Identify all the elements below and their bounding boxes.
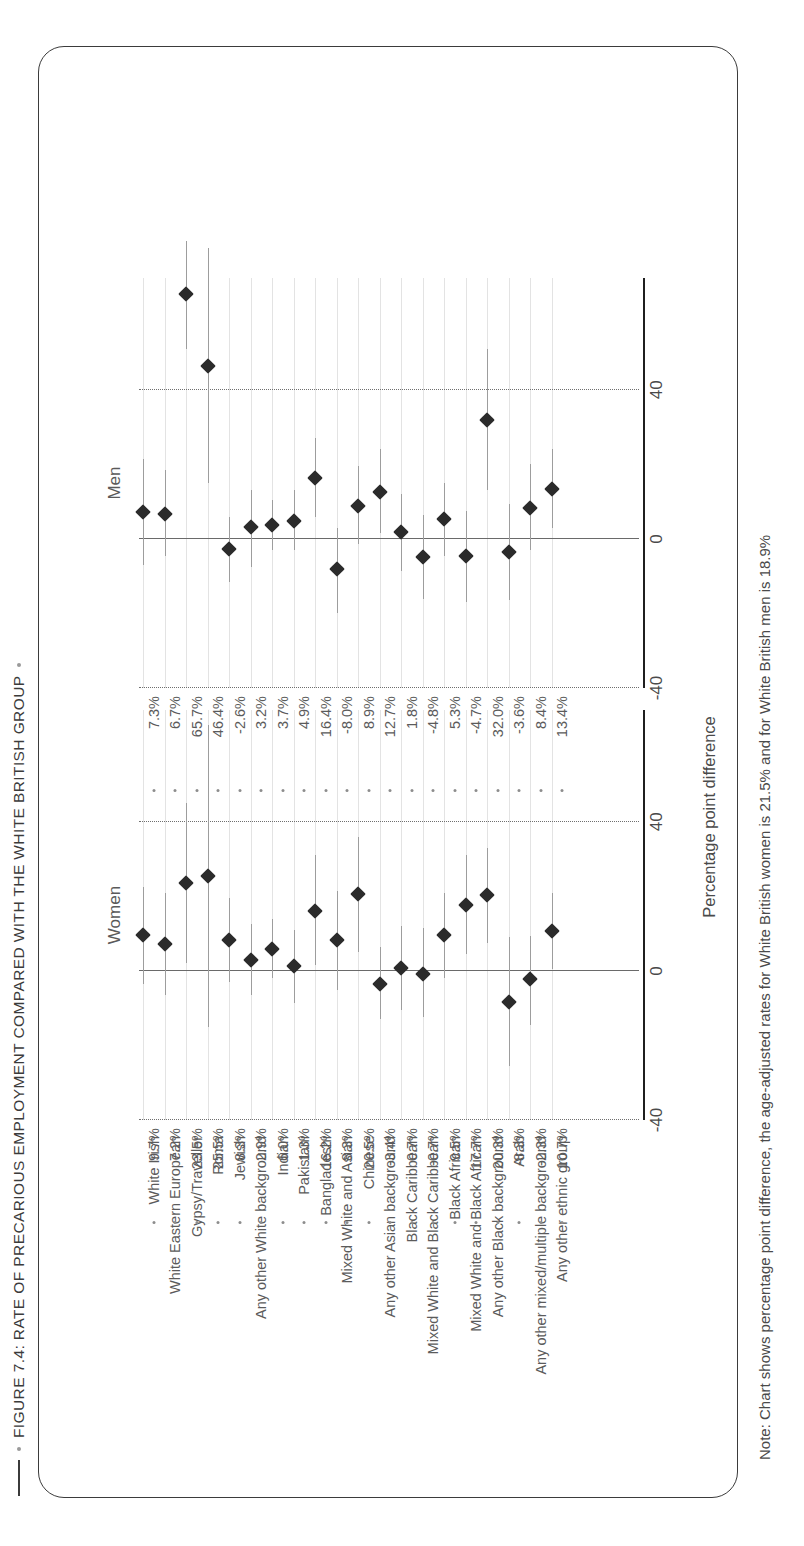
- value-row-women: 6.0%: [272, 1126, 294, 1222]
- panel-women: Women -40040: [105, 710, 665, 1120]
- data-point-women: [221, 932, 237, 948]
- data-point-men: [157, 506, 173, 522]
- x-tick-label: -40: [647, 1108, 667, 1133]
- data-point-men: [501, 545, 517, 561]
- data-point-men: [135, 504, 151, 520]
- value-bullet-icon: [539, 1221, 542, 1224]
- value-label-women: -8.3%: [511, 1126, 527, 1222]
- value-row-women: 20.5%: [358, 1126, 380, 1222]
- row-gridline: [229, 278, 230, 688]
- data-point-women: [479, 887, 495, 903]
- title-bullet-end-icon: [17, 663, 21, 667]
- x-tick-label: 40: [647, 812, 667, 831]
- row-gridline: [294, 710, 295, 1120]
- value-row-women: 9.7%: [143, 1126, 165, 1222]
- value-row-women: 2.9%: [251, 1126, 273, 1222]
- row-gridline: [401, 710, 402, 1120]
- value-row-women: -8.3%: [509, 1126, 531, 1222]
- row-gridline: [466, 278, 467, 688]
- data-point-women: [458, 897, 474, 913]
- value-row-women: 9.5%: [444, 1126, 466, 1222]
- value-label-women: 25.5%: [210, 1126, 226, 1222]
- value-bullet-icon: [453, 1221, 456, 1224]
- value-bullet-icon: [389, 1221, 392, 1224]
- data-point-men: [522, 500, 538, 516]
- value-bullet-icon: [174, 1221, 177, 1224]
- data-point-women: [544, 923, 560, 939]
- data-point-men: [286, 513, 302, 529]
- value-row-women: 17.7%: [466, 1126, 488, 1222]
- value-label-women: 16.2%: [318, 1126, 334, 1222]
- x-tick-label: 0: [647, 534, 667, 543]
- value-bullet-icon: [367, 1221, 370, 1224]
- value-label-women: 1.3%: [296, 1126, 312, 1222]
- panel-men: Men -40040: [105, 278, 665, 688]
- data-point-men: [544, 481, 560, 497]
- value-label-women: 9.7%: [146, 1126, 162, 1222]
- value-label-women: 23.5%: [189, 1126, 205, 1222]
- panel-title-women: Women: [105, 710, 125, 1120]
- data-point-women: [135, 927, 151, 943]
- value-bullet-icon: [496, 1221, 499, 1224]
- data-point-women: [178, 876, 194, 892]
- row-gridline: [337, 278, 338, 688]
- data-point-women: [243, 952, 259, 968]
- figure-note: Note: Chart shows percentage point diffe…: [756, 60, 773, 1460]
- data-point-men: [200, 358, 216, 374]
- title-bullet-icon: [17, 1447, 21, 1451]
- value-bullet-icon: [324, 1221, 327, 1224]
- data-point-men: [243, 519, 259, 535]
- data-point-men: [436, 511, 452, 527]
- x-axis-title: Percentage point difference: [700, 396, 719, 1238]
- x-tick-label: 40: [647, 380, 667, 399]
- data-point-women: [501, 994, 517, 1010]
- value-row-women: 7.2%: [165, 1126, 187, 1222]
- value-row-women: 10.7%: [552, 1126, 574, 1222]
- title-rule: [18, 1460, 20, 1496]
- value-row-women: 0.7%: [401, 1126, 423, 1222]
- figure-title-row: FIGURE 7.4: RATE OF PRECARIOUS EMPLOYMEN…: [10, 36, 28, 1496]
- value-row-women: 1.3%: [294, 1126, 316, 1222]
- data-point-women: [372, 976, 388, 992]
- value-bullet-icon: [217, 1221, 220, 1224]
- data-point-women: [522, 972, 538, 988]
- data-point-women: [286, 958, 302, 974]
- value-column-women: 9.7%7.2%23.5%25.5%8.3%2.9%6.0%1.3%16.2%8…: [105, 1126, 665, 1222]
- value-label-women: 10.7%: [554, 1126, 570, 1222]
- row-gridline: [401, 278, 402, 688]
- gridline-40: [139, 389, 639, 390]
- data-point-men: [264, 517, 280, 533]
- value-bullet-icon: [518, 1221, 521, 1224]
- row-gridline: [272, 278, 273, 688]
- value-label-women: 17.7%: [468, 1126, 484, 1222]
- axis-line-men: [643, 278, 645, 688]
- row-gridline: [251, 710, 252, 1120]
- value-label-women: 2.9%: [253, 1126, 269, 1222]
- value-bullet-icon: [281, 1221, 284, 1224]
- figure-canvas: FIGURE 7.4: RATE OF PRECARIOUS EMPLOYMEN…: [0, 0, 804, 1546]
- row-gridline: [530, 710, 531, 1120]
- value-label-women: 9.5%: [447, 1126, 463, 1222]
- plot-box-women: [139, 710, 639, 1120]
- data-point-women: [436, 928, 452, 944]
- value-row-women: -2.3%: [530, 1126, 552, 1222]
- value-row-women: 8.3%: [229, 1126, 251, 1222]
- value-label-women: 20.3%: [490, 1126, 506, 1222]
- zero-reference-line: [139, 538, 639, 539]
- value-bullet-icon: [475, 1221, 478, 1224]
- page-title: FIGURE 7.4: RATE OF PRECARIOUS EMPLOYMEN…: [10, 676, 28, 1438]
- value-bullet-icon: [303, 1221, 306, 1224]
- row-gridline: [251, 278, 252, 688]
- row-gridline: [423, 278, 424, 688]
- data-point-men: [178, 286, 194, 302]
- data-point-women: [329, 932, 345, 948]
- value-label-women: 0.7%: [404, 1126, 420, 1222]
- zero-reference-line: [139, 970, 639, 971]
- value-bullet-icon: [260, 1221, 263, 1224]
- row-gridline: [294, 278, 295, 688]
- value-bullet-icon: [346, 1221, 349, 1224]
- row-gridline: [509, 278, 510, 688]
- x-tick-label: 0: [647, 966, 667, 975]
- panel-title-men: Men: [105, 278, 125, 688]
- data-point-men: [458, 549, 474, 565]
